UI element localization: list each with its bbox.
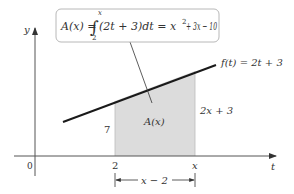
- tick-2-label: 2: [112, 160, 118, 171]
- area-label: A(x): [143, 116, 165, 127]
- origin-label: 0: [27, 161, 33, 171]
- right-height-label: 2x + 3: [199, 105, 233, 116]
- integral-lower: 2: [92, 34, 96, 42]
- y-axis-label: y: [23, 24, 30, 35]
- integral-upper: x: [98, 9, 102, 17]
- width-label: x − 2: [141, 175, 168, 186]
- formula-integrand: (2t + 3)dt = x: [99, 20, 177, 33]
- shaded-area-region: [115, 71, 195, 156]
- function-label: f(t) = 2t + 3: [220, 57, 283, 68]
- t-axis-label: t: [271, 161, 276, 172]
- area-function-diagram: A(x) = ∫ x 2 (2t + 3)dt = x 2 + 3x − 10 …: [0, 0, 294, 194]
- formula-tail: + 3x − 10: [186, 20, 217, 33]
- tick-x-label: x: [192, 160, 198, 171]
- left-height-label: 7: [104, 124, 110, 135]
